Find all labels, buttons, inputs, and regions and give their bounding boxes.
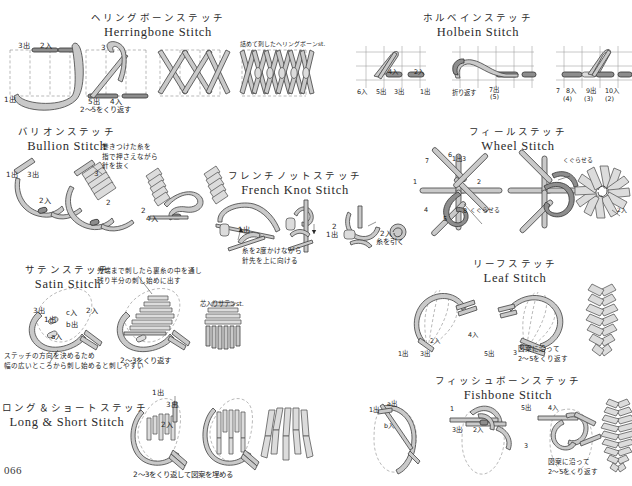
satin-label-in2: 2入 (86, 306, 98, 315)
wheel-label-s5: 5 (443, 215, 447, 223)
long-short-caption: 2〜3をくり返して図案を埋める (133, 468, 233, 479)
bullion-label-out1: 1出 (6, 170, 18, 179)
herringbone-label-out1: 1出 (4, 95, 16, 104)
wheel-label-in2: 2入 (617, 207, 627, 214)
leaf-label-out3: 3出 (420, 350, 430, 358)
bullion-note-line2: 指で押さえながら (102, 153, 158, 163)
fishbone-label-out-a: a出 (387, 400, 397, 408)
holbein-label-in6: 6入 (357, 88, 367, 96)
bullion-label-n2: 2 (106, 198, 111, 207)
bullion-note-line1: 巻きつけた糸を (102, 143, 158, 153)
herringbone-label-dense: 詰めて刺したヘリングボーンst. (240, 41, 325, 48)
satin-label-in-c: c入 (66, 308, 77, 317)
holbein-title-jp: ホルベインステッチ (378, 10, 578, 24)
french-knot-label-out1b: 1出 (326, 230, 338, 239)
bullion-note: 巻きつけた糸を 指で押さえながら 針を抜く (102, 143, 158, 172)
leaf-note-line1: 図案に沿って (518, 345, 568, 355)
french-knot-note: 糸を2度かけながら 針先を上に向ける (242, 247, 302, 266)
fishbone-label-in-b: b入 (384, 422, 394, 430)
stitch-reference-page: ヘリングボーンステッチ Herringbone Stitch (0, 0, 632, 486)
long-short-label-in2: 2入 (161, 420, 173, 429)
holbein-label-b3: (3) (584, 95, 593, 103)
holbein-label-out1: 1出 (420, 88, 430, 96)
holbein-label-out3: 3出 (394, 88, 404, 96)
long-short-title-jp: ロング＆ショートステッチ (2, 400, 132, 414)
page-number: 066 (4, 464, 22, 476)
fishbone-label-out1: 1出 (369, 406, 379, 414)
french-knot-note-line1: 糸を2度かけながら (242, 247, 302, 257)
fishbone-note: 図案に沿って 2〜5をくり返す (548, 458, 598, 477)
leaf-label-in4: 4入 (468, 331, 478, 339)
fishbone-label-in4: 4入 (548, 404, 558, 412)
herringbone-label-out3: 3出 (18, 41, 30, 50)
fishbone-label-out3: 3出 (452, 426, 462, 434)
bullion-note-line3: 針を抜く (102, 162, 158, 172)
herringbone-label-step3: 3 (101, 43, 106, 52)
satin-note-line2: 残り半分の刺し始めに出す (97, 277, 202, 287)
holbein-label-n7: 7 (556, 87, 560, 95)
holbein-label-bracket7: (5) (490, 93, 499, 101)
wheel-label-s7: 7 (425, 157, 429, 165)
wheel-label-s4: 4 (424, 206, 428, 214)
satin-label-out-b: b出 (66, 320, 78, 329)
bullion-label-n2b: 2 (141, 206, 146, 215)
satin-label-in-a: a入 (51, 332, 62, 341)
leaf-note: 図案に沿って 2〜5をくり返す (518, 345, 568, 364)
satin-tip: ステッチの方向を決めるため 幅の広いところから刺し始めると刺しやすい (4, 352, 144, 371)
leaf-label-in2: 2入 (430, 337, 440, 345)
holbein-label-b2: (2) (605, 95, 614, 103)
fishbone-note-line2: 2〜5をくり返す (548, 468, 598, 478)
wheel-label-weave2: くぐらせる (563, 157, 593, 164)
holbein-title-en: Holbein Stitch (378, 25, 578, 40)
leaf-title-jp: リーフステッチ (450, 256, 580, 270)
section-header-herringbone: ヘリングボーンステッチ Herringbone Stitch (58, 10, 258, 40)
bullion-label-n3: 3 (94, 169, 99, 178)
holbein-label-out5: 5出 (376, 88, 386, 96)
fishbone-title-jp: フィッシュボーンステッチ (428, 373, 588, 387)
fishbone-label-n1: 1 (450, 405, 454, 413)
wheel-label-s1: 1 (413, 178, 417, 186)
holbein-label-in10: 10入 (605, 87, 619, 95)
section-header-long-short: ロング＆ショートステッチ Long & Short Stitch (2, 400, 132, 430)
bullion-label-out3: 3出 (27, 170, 39, 179)
holbein-label-out9: 9出 (586, 87, 596, 95)
fishbone-label-in2: 2入 (473, 426, 483, 434)
satin-note: 先端まで刺したら裏糸の中を通し 残り半分の刺し始めに出す (97, 267, 202, 286)
satin-label-out3: 3出 (33, 306, 45, 315)
french-knot-label-out1: 1出 (238, 225, 250, 234)
herringbone-label-in2: 2入 (40, 41, 52, 50)
herringbone-title-jp: ヘリングボーンステッチ (58, 10, 258, 24)
leaf-label-out5: 5出 (484, 350, 494, 358)
french-knot-label-pull: 糸を引く (376, 237, 404, 246)
french-knot-note-line2: 針先を上に向ける (242, 257, 302, 267)
satin-note-line1: 先端まで刺したら裏糸の中を通し (97, 267, 202, 277)
section-header-holbein: ホルベインステッチ Holbein Stitch (378, 10, 578, 40)
holbein-label-in2: 2入 (414, 68, 424, 76)
satin-label-out1: 1出 (44, 315, 56, 324)
wheel-label-weave: くぐらせる (470, 207, 500, 214)
bullion-label-in4: 4入 (146, 214, 158, 223)
holbein-label-turn: 折り返す (452, 89, 476, 97)
fishbone-label-out5: 5出 (521, 404, 531, 412)
wheel-label-s6: 6 (448, 151, 452, 159)
holbein-label-b4: (4) (563, 95, 572, 103)
long-short-label-out1: 1出 (152, 388, 164, 397)
leaf-label-out1: 1出 (398, 350, 408, 358)
wheel-diagram (412, 148, 630, 240)
satin-tip-line1: ステッチの方向を決めるため (4, 352, 144, 362)
satin-tip-line2: 幅の広いところから刺し始めると刺しやすい (4, 362, 144, 372)
leaf-label-n3: 3 (513, 349, 517, 357)
long-short-title-en: Long & Short Stitch (2, 415, 132, 430)
fishbone-label-n3: 3 (524, 442, 528, 450)
leaf-note-line2: 2〜5をくり返す (518, 355, 568, 365)
satin-label-core: 芯入りサテンst. (200, 300, 244, 308)
bullion-label-in2: 2入 (39, 196, 51, 205)
herringbone-label-repeat: 2〜5をくり返す (80, 105, 131, 114)
wheel-label-s3: 1出3 (452, 155, 466, 163)
section-header-french-knot: フレンチノットステッチ French Knot Stitch (215, 168, 375, 198)
wheel-title-jp: フィールステッチ (448, 124, 588, 138)
holbein-label-in8: 8入 (566, 87, 576, 95)
wheel-label-s8: 8 (463, 207, 467, 215)
long-short-label-out3: 3出 (166, 400, 178, 409)
fishbone-note-line1: 図案に沿って (548, 458, 598, 468)
